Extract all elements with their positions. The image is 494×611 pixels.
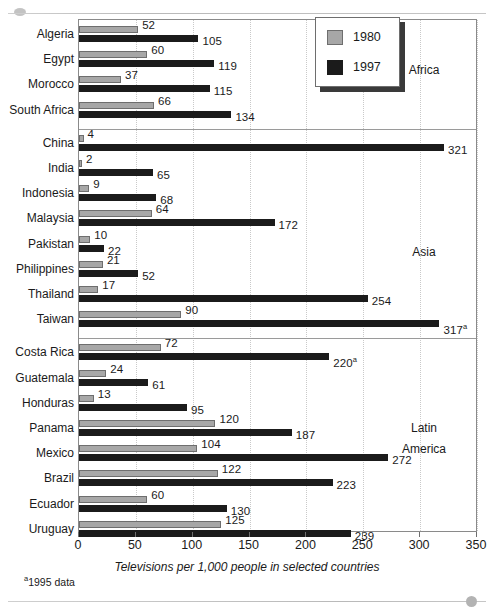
bar-1997-egypt: [79, 60, 214, 67]
category-label-china: China: [0, 136, 74, 150]
gridline-350: [477, 20, 478, 531]
bar-1997-malaysia: [79, 219, 275, 226]
bar-1997-honduras: [79, 404, 187, 411]
bar-1980-china: [79, 135, 84, 142]
category-label-philippines: Philippines: [0, 262, 74, 276]
bar-value-1980-mexico: 104: [201, 440, 221, 449]
axis-tick-label-50: 50: [128, 538, 142, 552]
bar-1997-costa-rica: [79, 353, 329, 360]
group-divider-asia: [79, 129, 476, 130]
bar-value-1980-china: 4: [88, 130, 95, 139]
bar-1980-guatemala: [79, 370, 106, 377]
bar-value-1980-panama: 120: [219, 415, 239, 424]
bar-1997-algeria: [79, 35, 198, 42]
axis-tick-label-350: 350: [466, 538, 487, 552]
bar-1997-china: [79, 144, 444, 151]
bar-1980-costa-rica: [79, 344, 161, 351]
bar-1980-morocco: [79, 76, 121, 83]
category-label-morocco: Morocco: [0, 77, 74, 91]
bar-1997-thailand: [79, 295, 368, 302]
axis-tick-label-300: 300: [409, 538, 430, 552]
axis-tick-300: [419, 532, 420, 537]
bar-value-1997-malaysia: 172: [279, 221, 299, 230]
axis-tick-0: [78, 532, 79, 537]
bar-value-1997-panama: 187: [296, 431, 316, 440]
region-label-latin-america-line2: America: [379, 442, 469, 456]
region-label-latin-america-line1: Latin: [379, 421, 469, 435]
category-label-south-africa: South Africa: [0, 103, 74, 117]
bar-value-1997-brazil: 223: [337, 481, 357, 490]
category-label-panama: Panama: [0, 421, 74, 435]
page-top-rule: [8, 13, 486, 14]
bar-1980-indonesia: [79, 185, 89, 192]
category-label-mexico: Mexico: [0, 446, 74, 460]
bar-value-1997-south-africa: 134: [235, 113, 255, 122]
region-label-asia: Asia: [379, 245, 469, 259]
bar-value-1980-south-africa: 66: [158, 97, 171, 106]
category-label-thailand: Thailand: [0, 287, 74, 301]
page-top-decoration-dot: [14, 8, 26, 16]
axis-tick-100: [192, 532, 193, 537]
bar-value-1980-malaysia: 64: [156, 205, 169, 214]
bar-1997-panama: [79, 429, 292, 436]
bar-1997-mexico: [79, 454, 388, 461]
axis-tick-150: [249, 532, 250, 537]
chart-legend: 1980 1997: [315, 17, 400, 87]
bar-value-1980-philippines: 21: [107, 256, 120, 265]
bar-1997-pakistan: [79, 245, 104, 252]
axis-tick-50: [135, 532, 136, 537]
legend-label-1997: 1997: [353, 60, 381, 74]
bar-1980-panama: [79, 420, 215, 427]
bar-1980-mexico: [79, 445, 197, 452]
footnote-text: 1995 data: [28, 576, 75, 588]
group-divider-latin-america: [79, 338, 476, 339]
bar-1980-uruguay: [79, 521, 221, 528]
axis-tick-label-100: 100: [181, 538, 202, 552]
bar-value-1980-taiwan: 90: [185, 306, 198, 315]
axis-tick-250: [362, 532, 363, 537]
bar-value-1980-india: 2: [86, 155, 93, 164]
bar-value-1997-india: 65: [157, 171, 170, 180]
bar-1980-philippines: [79, 261, 103, 268]
bar-value-1980-brazil: 122: [222, 465, 242, 474]
legend-swatch-1980-icon: [327, 30, 343, 45]
category-label-ecuador: Ecuador: [0, 497, 74, 511]
legend-swatch-1997-icon: [327, 60, 343, 75]
category-label-uruguay: Uruguay: [0, 522, 74, 536]
bar-value-1980-thailand: 17: [102, 281, 115, 290]
bar-1980-brazil: [79, 470, 218, 477]
bar-value-1997-taiwan: 317a: [443, 322, 467, 335]
category-label-brazil: Brazil: [0, 471, 74, 485]
bar-1997-brazil: [79, 479, 333, 486]
bar-value-1980-egypt: 60: [151, 46, 164, 55]
bar-value-1997-honduras: 95: [191, 406, 204, 415]
bar-1997-indonesia: [79, 194, 156, 201]
bar-value-1980-guatemala: 24: [110, 365, 123, 374]
bar-value-1997-china: 321: [448, 146, 468, 155]
bar-value-1980-pakistan: 10: [94, 231, 107, 240]
bar-value-1997-morocco: 115: [214, 87, 233, 96]
bar-1997-india: [79, 169, 153, 176]
category-label-guatemala: Guatemala: [0, 371, 74, 385]
bar-1980-taiwan: [79, 311, 181, 318]
bar-value-1980-algeria: 52: [142, 21, 155, 30]
bar-1980-south-africa: [79, 102, 154, 109]
category-label-india: India: [0, 161, 74, 175]
axis-tick-label-200: 200: [295, 538, 316, 552]
bar-1980-algeria: [79, 26, 138, 33]
bar-value-1980-ecuador: 60: [151, 491, 164, 500]
chart-footnote: a1995 data: [24, 574, 75, 588]
bar-value-1997-guatemala: 61: [152, 381, 165, 390]
category-label-egypt: Egypt: [0, 52, 74, 66]
legend-label-1980: 1980: [353, 30, 381, 44]
bar-value-1980-costa-rica: 72: [165, 339, 178, 348]
bar-value-1980-morocco: 37: [125, 71, 138, 80]
axis-tick-label-0: 0: [75, 538, 82, 552]
bar-1980-malaysia: [79, 210, 152, 217]
axis-tick-label-150: 150: [238, 538, 259, 552]
bar-value-1997-mexico: 272: [392, 456, 412, 465]
bar-1980-thailand: [79, 286, 98, 293]
category-label-algeria: Algeria: [0, 27, 74, 41]
bar-1997-south-africa: [79, 111, 231, 118]
category-label-taiwan: Taiwan: [0, 312, 74, 326]
